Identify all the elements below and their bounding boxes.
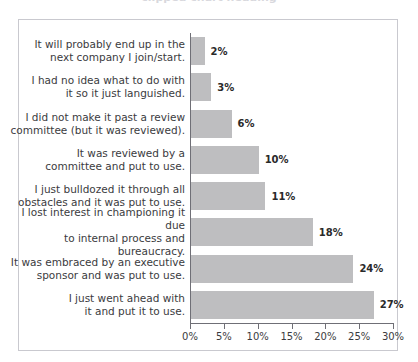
bar-row: I just went ahead with it and put it to … <box>191 291 404 319</box>
bar-value-label: 24% <box>359 263 383 274</box>
bar-row: I just bulldozed it through all obstacle… <box>191 182 295 210</box>
bar <box>191 73 211 101</box>
bar-row: I did not make it past a review committe… <box>191 110 255 138</box>
category-label: I did not make it past a review committe… <box>10 111 185 137</box>
bar <box>191 291 374 319</box>
category-label: It was embraced by an executive sponsor … <box>10 256 185 282</box>
category-label: It will probably end up in the next comp… <box>10 38 185 64</box>
bar-value-label: 2% <box>211 46 228 57</box>
category-label: I had no idea what to do with it so it j… <box>10 74 185 100</box>
x-axis-tick <box>393 324 394 329</box>
bar-value-label: 11% <box>271 191 295 202</box>
bar-row: It was embraced by an executive sponsor … <box>191 255 383 283</box>
x-axis-tick <box>258 324 259 329</box>
bar <box>191 146 259 174</box>
bar <box>191 218 313 246</box>
category-label: I just bulldozed it through all obstacle… <box>10 183 185 209</box>
x-axis-tick <box>190 324 191 329</box>
bar-value-label: 10% <box>265 154 289 165</box>
x-axis-tick <box>325 324 326 329</box>
category-label: It was reviewed by a committee and put t… <box>10 147 185 173</box>
x-axis-tick <box>224 324 225 329</box>
bar-row: It will probably end up in the next comp… <box>191 37 228 65</box>
bar-row: I had no idea what to do with it so it j… <box>191 73 234 101</box>
plot-area: It will probably end up in the next comp… <box>190 33 393 323</box>
bar-row: I lost interest in championing it due to… <box>191 218 343 246</box>
bar-value-label: 3% <box>217 82 234 93</box>
bar <box>191 182 265 210</box>
chart-frame: It will probably end up in the next comp… <box>18 19 398 351</box>
clipped-chart-title: clipped chart heading <box>0 0 418 5</box>
bar <box>191 37 205 65</box>
bar-value-label: 18% <box>319 227 343 238</box>
bar <box>191 255 353 283</box>
category-label: I lost interest in championing it due to… <box>10 206 185 258</box>
x-axis-tick <box>292 324 293 329</box>
bar-value-label: 6% <box>238 118 255 129</box>
bar-row: It was reviewed by a committee and put t… <box>191 146 289 174</box>
bar <box>191 110 232 138</box>
bar-value-label: 27% <box>380 299 404 310</box>
x-axis-tick <box>359 324 360 329</box>
category-label: I just went ahead with it and put it to … <box>10 292 185 318</box>
x-axis-tick-label: 30% <box>373 331 413 342</box>
